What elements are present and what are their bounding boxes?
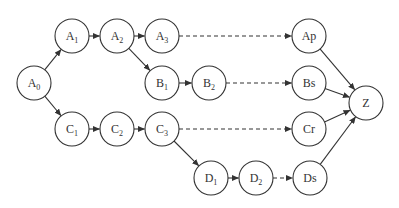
node-c2: C2 xyxy=(100,112,134,146)
node-bs: Bs xyxy=(292,66,326,100)
node-ds: Ds xyxy=(293,161,327,195)
node-cr: Cr xyxy=(292,112,326,146)
edges-layer xyxy=(45,36,356,178)
node-a3: A3 xyxy=(145,19,179,53)
node-label: Ap xyxy=(302,29,317,43)
node-ap: Ap xyxy=(292,19,326,53)
edge-a0-to-c1 xyxy=(45,96,61,115)
node-d1: D1 xyxy=(194,161,228,195)
node-label: Bs xyxy=(303,76,316,90)
edge-a0-to-a1 xyxy=(45,50,61,70)
node-z: Z xyxy=(349,86,383,120)
node-d2: D2 xyxy=(239,161,273,195)
edge-a2-to-b1 xyxy=(129,48,150,70)
edge-c3-to-d1 xyxy=(174,141,199,166)
node-b1: B1 xyxy=(145,66,179,100)
flow-diagram: A0A1A2A3B1B2C1C2C3D1D2ApBsCrDsZ xyxy=(0,0,399,208)
node-b2: B2 xyxy=(192,66,226,100)
node-label: Cr xyxy=(303,122,315,136)
nodes-layer: A0A1A2A3B1B2C1C2C3D1D2ApBsCrDsZ xyxy=(17,19,383,195)
node-c3: C3 xyxy=(145,112,179,146)
node-label: Ds xyxy=(303,171,317,185)
node-c1: C1 xyxy=(55,112,89,146)
edge-cr-to-z xyxy=(325,110,351,122)
node-label: Z xyxy=(362,96,369,110)
node-a2: A2 xyxy=(100,19,134,53)
node-a1: A1 xyxy=(55,19,89,53)
edge-bs-to-z xyxy=(325,89,350,98)
node-a0: A0 xyxy=(17,66,51,100)
